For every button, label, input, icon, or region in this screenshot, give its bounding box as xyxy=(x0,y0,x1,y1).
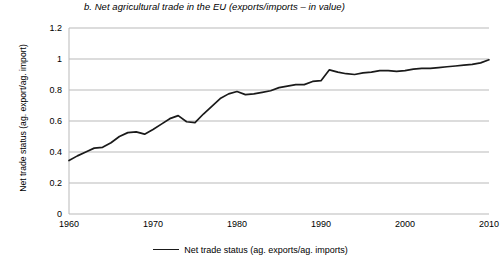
legend-line-swatch xyxy=(153,249,179,250)
legend-item: Net trade status (ag. exports/ag. import… xyxy=(153,245,348,255)
plot-area xyxy=(0,0,501,263)
chart-figure: b. Net agricultural trade in the EU (exp… xyxy=(0,0,501,263)
legend: Net trade status (ag. exports/ag. import… xyxy=(0,242,501,255)
data-series-line xyxy=(69,60,489,161)
gridlines xyxy=(69,28,489,214)
legend-label: Net trade status (ag. exports/ag. import… xyxy=(184,245,348,255)
